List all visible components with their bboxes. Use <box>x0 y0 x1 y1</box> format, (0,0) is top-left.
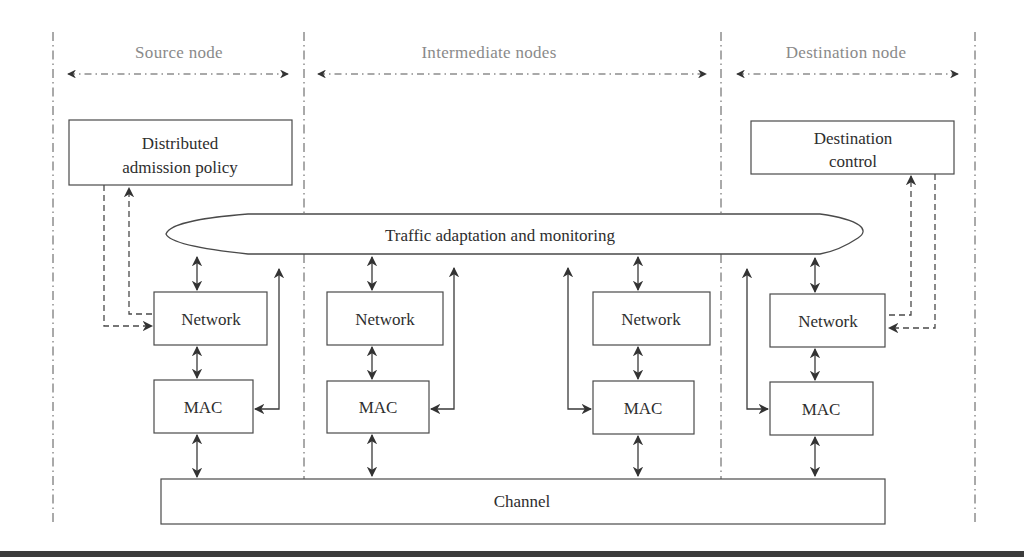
destination-control-line2: control <box>829 152 877 171</box>
mac-label: MAC <box>359 398 398 417</box>
section-label-destination: Destination node <box>786 43 906 62</box>
channel-block: Channel <box>161 479 885 524</box>
destination-control-line1: Destination <box>814 129 893 148</box>
section-label-source: Source node <box>135 43 223 62</box>
destination-control-block: Destination control <box>751 121 954 174</box>
section-header-source: Source node <box>68 43 288 74</box>
bottom-rule <box>0 551 1024 557</box>
mac-label: MAC <box>184 398 223 417</box>
node-destination-stack: Network MAC <box>747 258 885 476</box>
distributed-admission-policy-block: Distributed admission policy <box>69 120 292 185</box>
section-separators <box>53 32 975 525</box>
channel-label: Channel <box>494 492 551 511</box>
mac-label: MAC <box>624 399 663 418</box>
node-source-stack: Network MAC <box>154 257 279 477</box>
network-label: Network <box>181 310 241 329</box>
admission-policy-line2: admission policy <box>122 158 238 177</box>
node-intermediate-1-stack: Network MAC <box>327 257 454 476</box>
network-label: Network <box>621 310 681 329</box>
traffic-label: Traffic adaptation and monitoring <box>385 226 615 245</box>
network-label: Network <box>355 310 415 329</box>
mac-label: MAC <box>802 400 841 419</box>
section-header-intermediate: Intermediate nodes <box>318 43 706 74</box>
protocol-architecture-diagram: Source node Intermediate nodes Destinati… <box>0 0 1024 557</box>
destination-control-loop <box>889 174 935 328</box>
node-intermediate-2-stack: Network MAC <box>568 257 710 476</box>
section-label-intermediate: Intermediate nodes <box>421 43 556 62</box>
source-policy-loop <box>104 185 152 326</box>
network-label: Network <box>798 312 858 331</box>
section-header-destination: Destination node <box>737 43 958 74</box>
admission-policy-line1: Distributed <box>142 134 219 153</box>
traffic-adaptation-monitoring-block: Traffic adaptation and monitoring <box>166 214 863 254</box>
